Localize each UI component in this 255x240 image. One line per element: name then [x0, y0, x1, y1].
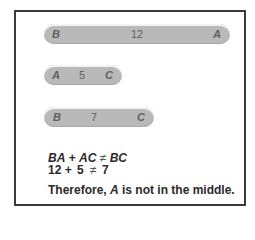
point-label-c: C — [137, 110, 145, 124]
value: 12 — [48, 163, 61, 177]
plus-sign: + — [65, 163, 72, 177]
segment-length: 5 — [79, 68, 85, 82]
middle-point-label: A — [110, 183, 119, 197]
value: 5 — [77, 163, 84, 177]
value: 7 — [102, 163, 109, 177]
point-label-b: B — [52, 27, 60, 41]
segment-ac: A 5 C — [44, 65, 122, 85]
term: BC — [110, 151, 127, 165]
segment-bc: B 7 C — [44, 107, 154, 127]
point-label-c: C — [105, 68, 113, 82]
point-label-a: A — [213, 27, 221, 41]
conclusion: Therefore, A is not in the middle. — [48, 183, 235, 197]
segment-length: 7 — [91, 110, 97, 124]
not-equal-sign: ≠ — [90, 163, 97, 177]
segment-ba: B 12 A — [44, 24, 230, 44]
segment-length: 12 — [131, 27, 143, 41]
equation-numeric: 12 + 5 ≠ 7 — [48, 164, 109, 176]
conclusion-prefix: Therefore, — [48, 183, 110, 197]
conclusion-suffix: is not in the middle. — [119, 183, 235, 197]
point-label-b: B — [53, 110, 61, 124]
point-label-a: A — [52, 68, 60, 82]
